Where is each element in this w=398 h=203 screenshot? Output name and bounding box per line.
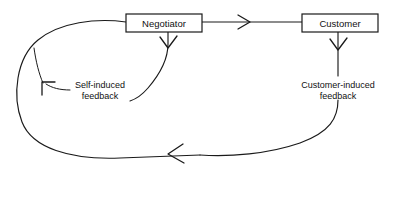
node-negotiator[interactable]: Negotiator: [126, 14, 202, 32]
customer-induced-feedback-line2: feedback: [320, 91, 357, 101]
node-customer[interactable]: Customer: [302, 14, 378, 32]
annotation-customer-induced-feedback: Customer-induced feedback: [301, 80, 375, 101]
self-induced-feedback-line1: Self-induced: [75, 80, 125, 90]
negotiator-down-branch-path: [130, 32, 168, 101]
customer-feedback-loop-path: [200, 100, 338, 156]
bottom-left-arrowhead-icon: [168, 144, 184, 163]
node-customer-label: Customer: [319, 18, 360, 29]
self-feedback-stem-path: [34, 48, 43, 83]
diagram-canvas: Negotiator Customer Self-induced feedbac…: [0, 0, 398, 203]
annotation-self-induced-feedback: Self-induced feedback: [75, 80, 125, 101]
customer-induced-feedback-line1: Customer-induced: [301, 80, 375, 90]
self-feedback-arrowhead-icon: [42, 82, 55, 95]
node-negotiator-label: Negotiator: [142, 18, 186, 29]
self-feedback-leader-path: [46, 84, 70, 90]
diagram-svg: Negotiator Customer Self-induced feedbac…: [0, 0, 398, 203]
self-induced-feedback-line2: feedback: [82, 91, 119, 101]
